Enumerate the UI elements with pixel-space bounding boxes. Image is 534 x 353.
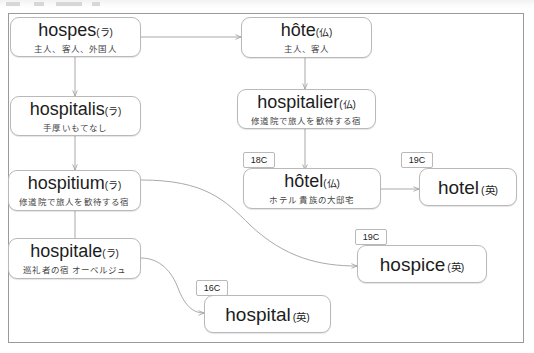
node-hospital-en-lang: (英): [291, 311, 310, 323]
node-hospice-en[interactable]: hospice(英): [357, 245, 487, 283]
node-hospitalis-term: hospitalis: [30, 99, 105, 119]
node-hospitalier-term: hospitalier: [257, 92, 339, 112]
node-hote[interactable]: hôte(仏) 主人、客人: [241, 17, 372, 58]
node-hospitale-gloss: 巡礼者の宿 オーベルジュ: [23, 263, 126, 275]
node-hospitalis-gloss: 手厚いもてなし: [43, 121, 107, 133]
node-hospitium-term: hospitium: [28, 173, 105, 193]
node-hospitale[interactable]: hospitale(ラ) 巡礼者の宿 オーベルジュ: [8, 238, 141, 279]
node-hospes-gloss: 主人、客人、外国人: [34, 42, 117, 54]
century-tag-hospice-en: 19C: [355, 229, 387, 245]
century-tag-hotel-fr: 18C: [243, 152, 275, 168]
node-hospice-en-headline: hospice(英): [380, 255, 465, 274]
century-tag-hospital-en: 16C: [196, 280, 228, 296]
century-tag-hotel-en: 19C: [401, 152, 433, 168]
node-hotel-fr[interactable]: hôtel(仏) ホテル 貴族の大邸宅: [243, 168, 381, 209]
node-hospitale-headline: hospitale(ラ): [30, 242, 119, 260]
node-hospitale-lang: (ラ): [102, 248, 119, 259]
node-hospice-en-lang: (英): [445, 261, 464, 273]
diagram-canvas: 18C 19C 19C 16C hospes(ラ) 主人、客人、外国人 hosp…: [0, 0, 534, 353]
node-hospitium[interactable]: hospitium(ラ) 修道院で旅人を歓待する宿: [8, 170, 141, 211]
node-hotel-fr-gloss: ホテル 貴族の大邸宅: [269, 193, 354, 205]
node-hotel-en-lang: (英): [479, 184, 498, 196]
node-hospes-headline: hospes(ラ): [38, 21, 113, 39]
node-hospital-en-term: hospital: [225, 304, 291, 325]
node-hospitalier-lang: (仏): [339, 99, 356, 110]
node-hospitalis-lang: (ラ): [105, 106, 122, 117]
node-hospitale-term: hospitale: [30, 241, 102, 261]
node-hospitium-lang: (ラ): [105, 180, 122, 191]
node-hote-gloss: 主人、客人: [284, 42, 330, 54]
node-hospice-en-term: hospice: [380, 254, 446, 275]
node-hotel-fr-headline: hôtel(仏): [284, 172, 340, 190]
node-hotel-en-term: hotel: [438, 177, 479, 198]
node-hospitalier-headline: hospitalier(仏): [257, 93, 356, 111]
node-hospes-term: hospes: [38, 20, 96, 40]
node-hospitalier[interactable]: hospitalier(仏) 修道院で旅人を歓待する宿: [237, 89, 376, 129]
node-hospitalis-headline: hospitalis(ラ): [30, 100, 122, 118]
scan-edge-artifact: [0, 0, 534, 9]
node-hotel-fr-lang: (仏): [323, 178, 340, 189]
node-hote-lang: (仏): [316, 27, 333, 38]
node-hospes[interactable]: hospes(ラ) 主人、客人、外国人: [10, 17, 141, 57]
node-hotel-en[interactable]: hotel(英): [419, 168, 517, 206]
node-hospital-en[interactable]: hospital(英): [204, 295, 331, 333]
node-hotel-en-headline: hotel(英): [438, 178, 498, 197]
node-hospes-lang: (ラ): [96, 27, 113, 38]
node-hote-headline: hôte(仏): [281, 21, 333, 39]
node-hospitium-gloss: 修道院で旅人を歓待する宿: [19, 195, 129, 207]
node-hospitalis[interactable]: hospitalis(ラ) 手厚いもてなし: [10, 96, 141, 136]
node-hospital-en-headline: hospital(英): [225, 305, 310, 324]
node-hote-term: hôte: [281, 20, 316, 40]
node-hospitalier-gloss: 修道院で旅人を歓待する宿: [251, 114, 361, 126]
node-hospitium-headline: hospitium(ラ): [28, 174, 122, 192]
node-hotel-fr-term: hôtel: [284, 171, 323, 191]
